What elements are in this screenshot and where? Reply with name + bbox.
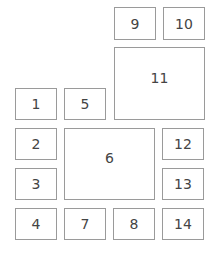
box-label: 8: [130, 216, 139, 232]
box-9: 9: [114, 7, 156, 40]
box-7: 7: [64, 208, 106, 240]
box-label: 10: [175, 16, 193, 32]
box-2: 2: [15, 128, 57, 160]
box-12: 12: [162, 128, 204, 160]
box-label: 13: [174, 176, 192, 192]
box-13: 13: [162, 168, 204, 200]
box-4: 4: [15, 208, 57, 240]
box-label: 6: [105, 150, 114, 166]
box-1: 1: [15, 88, 57, 120]
box-label: 9: [131, 16, 140, 32]
box-label: 11: [151, 70, 169, 86]
box-3: 3: [15, 168, 57, 200]
box-11: 11: [114, 47, 205, 120]
box-8: 8: [113, 208, 155, 240]
box-label: 5: [81, 96, 90, 112]
box-label: 1: [32, 96, 41, 112]
box-label: 12: [174, 136, 192, 152]
box-5: 5: [64, 88, 106, 120]
box-14: 14: [162, 208, 204, 240]
box-label: 14: [174, 216, 192, 232]
box-label: 7: [81, 216, 90, 232]
box-label: 4: [32, 216, 41, 232]
box-6: 6: [64, 128, 155, 200]
box-label: 3: [32, 176, 41, 192]
box-10: 10: [163, 7, 205, 40]
box-label: 2: [32, 136, 41, 152]
